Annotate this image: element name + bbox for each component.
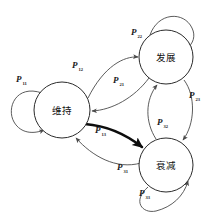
edge-label-p22-sub: 22	[138, 34, 143, 39]
edge-label-p23: P 23	[189, 90, 201, 102]
edge-label-p23-sub: 23	[196, 97, 201, 102]
edge-label-p11-base: P	[16, 74, 22, 84]
edge-label-p11-sub: 11	[23, 81, 28, 86]
edge-label-p33-sub: 33	[146, 195, 151, 200]
edge-shuaijian-fazhan	[148, 85, 157, 139]
state-transition-diagram: 维持 发展 衰减 P 11 P 12 P 21 P 22 P 2	[0, 0, 211, 217]
edge-label-p22-base: P	[131, 27, 137, 37]
edge-label-p12-base: P	[72, 60, 78, 70]
diagram-canvas: 维持 发展 衰减 P 11 P 12 P 21 P 22 P 2	[0, 0, 211, 217]
edge-label-p21: P 21	[113, 75, 125, 87]
node-fazhan-label: 发展	[156, 52, 177, 63]
node-weichi[interactable]: 维持	[34, 82, 90, 138]
node-weichi-label: 维持	[52, 105, 73, 116]
edge-label-p31: P 31	[117, 162, 129, 174]
node-shuaijian[interactable]: 衰减	[139, 138, 193, 192]
edge-label-p12: P 12	[72, 60, 84, 72]
edge-label-p13-sub: 13	[102, 132, 107, 137]
edge-fazhan-shuaijian	[183, 80, 193, 140]
edge-shuaijian-weichi	[76, 138, 141, 165]
edge-label-p32: P 32	[157, 117, 169, 129]
edge-label-p32-base: P	[157, 117, 163, 127]
edge-label-p21-base: P	[113, 75, 119, 85]
edge-label-p32-sub: 32	[164, 124, 169, 129]
edge-label-p33-base: P	[139, 188, 145, 198]
edge-label-p11: P 11	[16, 74, 28, 86]
edge-weichi-shuaijian-bold	[85, 124, 142, 147]
edge-label-p22: P 22	[131, 27, 143, 39]
edge-label-p21-sub: 21	[120, 82, 125, 87]
edge-label-p31-sub: 31	[124, 169, 129, 174]
edge-label-p12-sub: 12	[79, 67, 84, 72]
edge-label-p31-base: P	[117, 162, 123, 172]
edge-label-p13-base: P	[95, 125, 101, 135]
node-shuaijian-label: 衰减	[156, 160, 177, 171]
edge-label-p23-base: P	[189, 90, 195, 100]
node-fazhan[interactable]: 发展	[139, 30, 193, 84]
